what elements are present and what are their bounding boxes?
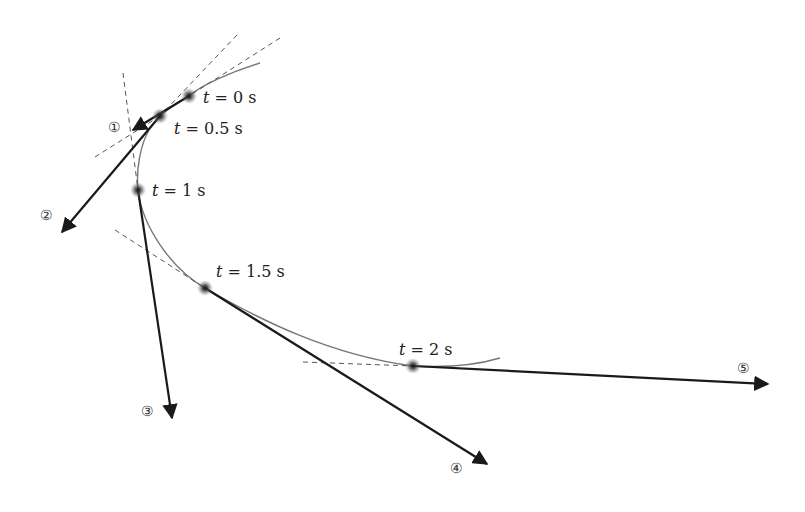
- arrow-label-5: ⑤: [737, 360, 750, 376]
- label-t0: t = 0 s: [203, 88, 257, 107]
- arrow-label-3: ③: [141, 403, 154, 419]
- label-t05: t = 0.5 s: [174, 119, 243, 138]
- arrow-label-2: ②: [40, 207, 53, 223]
- tangent-cross: [95, 116, 160, 157]
- trajectory-curve: [138, 63, 501, 367]
- tangent-lines: [95, 35, 413, 366]
- trajectory-diagram: t = 0 s t = 0.5 s t = 1 s t = 1.5 s t = …: [0, 0, 805, 512]
- point-t15: [197, 280, 213, 296]
- arrow-label-1: ①: [108, 119, 121, 135]
- arrow-5: [413, 366, 768, 384]
- label-t15: t = 1.5 s: [216, 262, 285, 281]
- arrow-3: [138, 190, 172, 418]
- point-t0: [181, 88, 197, 104]
- arrow-4: [205, 288, 487, 464]
- point-t2: [405, 358, 421, 374]
- point-t1: [130, 182, 146, 198]
- label-t2: t = 2 s: [399, 340, 453, 359]
- point-t05: [152, 108, 168, 124]
- label-t1: t = 1 s: [152, 181, 206, 200]
- arrow-label-4: ④: [450, 460, 463, 476]
- tangent-t15: [115, 230, 205, 288]
